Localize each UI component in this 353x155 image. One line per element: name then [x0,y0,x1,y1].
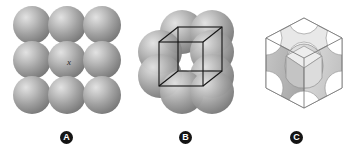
sphere [48,6,86,44]
panel-label-b: B [179,131,192,144]
sphere [13,76,51,114]
panel-a-sphere-grid: x [13,6,121,118]
sphere [83,6,121,44]
panel-c-cut-unit-cell [262,16,346,116]
sphere [48,76,86,114]
sphere [83,76,121,114]
sphere [83,41,121,79]
unit-cell-wireframe-icon [134,10,238,118]
annotation-x-label: x [67,58,71,67]
sphere [13,41,51,79]
panel-label-c: C [290,131,303,144]
cut-unit-cell-icon [262,16,346,116]
panel-label-a: A [60,131,73,144]
panel-b-cluster-wireframe [134,10,238,118]
figure-canvas: x [0,0,353,155]
sphere [13,6,51,44]
